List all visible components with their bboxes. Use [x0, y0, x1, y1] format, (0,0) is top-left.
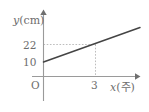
x-axis-tick-label-3: 3: [91, 80, 98, 91]
y-axis-label: y(cm): [13, 15, 44, 26]
x-axis-unit: (주): [116, 81, 135, 94]
data-line-series-y: [44, 28, 141, 63]
x-axis-label: x(주): [110, 82, 135, 93]
x-axis-arrowhead-icon: [135, 73, 141, 80]
origin-label: O: [31, 80, 40, 91]
y-axis-unit: (cm): [19, 14, 44, 27]
y-axis-tick-label-22: 22: [23, 40, 36, 51]
y-axis-tick-label-10: 10: [23, 57, 36, 68]
coordinate-graph-figure: y(cm) x(주) 22 10 O 3: [0, 0, 149, 112]
